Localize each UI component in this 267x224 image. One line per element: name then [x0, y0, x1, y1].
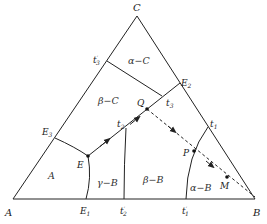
label-E: E	[76, 160, 84, 170]
label-E2: E2	[180, 78, 192, 89]
label-t2p: t′2	[120, 205, 127, 217]
label-Q: Q	[137, 98, 145, 108]
arrow-E-t2	[100, 140, 108, 147]
point-E	[86, 154, 90, 158]
label-E1: E1	[79, 206, 90, 217]
point-Q	[145, 107, 149, 111]
boundary-t2-t2p	[124, 128, 126, 199]
boundary-E3-E	[55, 138, 88, 156]
label-C: C	[133, 2, 141, 13]
label-t1p: t′1	[182, 205, 189, 217]
arrow-Q-P	[168, 126, 174, 131]
point-M	[225, 175, 229, 179]
region-beta-B: β−B	[142, 174, 163, 185]
label-A: A	[4, 207, 12, 218]
label-t3: t3	[166, 98, 174, 109]
region-A: A	[47, 170, 55, 181]
label-t3p: t′3	[93, 54, 100, 66]
point-P	[192, 149, 196, 153]
label-B: B	[252, 207, 260, 218]
label-t2: t2	[117, 119, 125, 130]
label-P: P	[182, 148, 190, 158]
label-E3: E3	[41, 127, 53, 138]
region-alpha-B: α−B	[190, 182, 211, 193]
ternary-diagram: C A B t′3 E2 t3 Q t2 t1 E3 E P M E1 t′2 …	[0, 0, 267, 224]
region-gamma-B: γ−B	[97, 177, 118, 188]
label-M: M	[219, 181, 230, 191]
boundary-t3p-t3	[107, 61, 162, 96]
region-alpha-C: α−C	[128, 55, 150, 66]
region-beta-C: β−C	[97, 95, 119, 106]
label-t1: t1	[210, 119, 217, 130]
boundary-E-E1	[86, 156, 90, 199]
